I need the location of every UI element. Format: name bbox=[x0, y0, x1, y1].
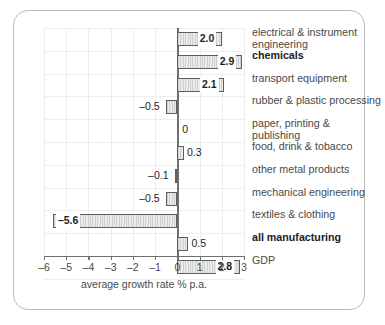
bar-value-label: –0.5 bbox=[139, 98, 159, 115]
x-axis-tick bbox=[66, 256, 67, 260]
x-axis-tick bbox=[111, 256, 112, 260]
bar-value-label: 2.0 bbox=[198, 30, 217, 47]
bar-track: 2.0 bbox=[44, 28, 244, 51]
bar bbox=[177, 146, 184, 160]
x-axis-tick bbox=[222, 256, 223, 260]
x-axis-tick-label: 3 bbox=[241, 261, 247, 273]
x-axis-tick-label: –5 bbox=[60, 261, 72, 273]
category-label: GDP bbox=[252, 255, 385, 267]
category-label: other metal products bbox=[252, 164, 385, 176]
x-axis-tick-label: 1 bbox=[197, 261, 203, 273]
bar-row: –0.5mechanical engineering bbox=[30, 188, 351, 211]
x-axis-tick-label: 0 bbox=[174, 261, 180, 273]
bar-track: 2.8 bbox=[44, 256, 244, 279]
bar-row: 0paper, printing & publishing bbox=[30, 119, 351, 142]
x-axis-tick-label: –3 bbox=[105, 261, 117, 273]
bar-value-label: 2.1 bbox=[200, 76, 219, 93]
x-axis-tick-label: 2 bbox=[219, 261, 225, 273]
category-label: all manufacturing bbox=[252, 232, 385, 244]
bar-track: 2.1 bbox=[44, 74, 244, 97]
bar-track: –0.5 bbox=[44, 188, 244, 211]
x-axis-line bbox=[44, 256, 244, 257]
bar bbox=[177, 237, 188, 251]
bar-value-label: 0 bbox=[182, 121, 188, 138]
bar-row: 0.5all manufacturing bbox=[30, 233, 351, 256]
chart-card: 2.0electrical & instrument engineering2.… bbox=[13, 10, 365, 310]
x-axis-tick-label: –4 bbox=[83, 261, 95, 273]
bar bbox=[166, 192, 177, 206]
x-axis-tick-label: –2 bbox=[127, 261, 139, 273]
bar-value-label: –5.6 bbox=[56, 212, 80, 229]
bar-row: 2.9chemicals bbox=[30, 51, 351, 74]
category-label: food, drink & tobacco bbox=[252, 141, 385, 153]
bar-row: –0.1other metal products bbox=[30, 165, 351, 188]
category-label: textiles & clothing bbox=[252, 209, 385, 221]
x-axis-tick bbox=[44, 256, 45, 260]
x-axis-tick bbox=[244, 256, 245, 260]
bar-value-label: 0.5 bbox=[191, 235, 206, 252]
x-axis-tick-label: –6 bbox=[38, 261, 50, 273]
bar-row: 2.1transport equipment bbox=[30, 74, 351, 97]
category-label: chemicals bbox=[252, 50, 385, 62]
x-axis-tick bbox=[133, 256, 134, 260]
bar-value-label: 0.3 bbox=[187, 144, 202, 161]
bar-track: –5.6 bbox=[44, 210, 244, 233]
chart-plot-area: 2.0electrical & instrument engineering2.… bbox=[30, 28, 351, 294]
category-label: paper, printing & publishing bbox=[252, 118, 385, 141]
bar-row: –5.6textiles & clothing bbox=[30, 210, 351, 233]
bar-track: 0 bbox=[44, 119, 244, 142]
bar-row: –0.5rubber & plastic processing bbox=[30, 96, 351, 119]
bar-track: 2.9 bbox=[44, 51, 244, 74]
bar-row: 0.3food, drink & tobacco bbox=[30, 142, 351, 165]
bar-row: 2.0electrical & instrument engineering bbox=[30, 28, 351, 51]
bar-value-label: 2.9 bbox=[218, 53, 237, 70]
x-axis-tick bbox=[200, 256, 201, 260]
bar-track: –0.5 bbox=[44, 96, 244, 119]
bar-track: 0.5 bbox=[44, 233, 244, 256]
x-axis-tick-label: –1 bbox=[149, 261, 161, 273]
x-axis-tick bbox=[177, 256, 178, 260]
x-axis-tick bbox=[88, 256, 89, 260]
category-label: rubber & plastic processing bbox=[252, 95, 385, 107]
bar-track: –0.1 bbox=[44, 165, 244, 188]
category-label: transport equipment bbox=[252, 73, 385, 85]
category-label: electrical & instrument engineering bbox=[252, 27, 385, 50]
bar bbox=[166, 100, 177, 114]
bar-track: 0.3 bbox=[44, 142, 244, 165]
category-label: mechanical engineering bbox=[252, 187, 385, 199]
bar-value-label: –0.5 bbox=[139, 190, 159, 207]
bar-row: 2.8GDP bbox=[30, 256, 351, 279]
bar bbox=[175, 169, 177, 183]
x-axis-title: average growth rate % p.a. bbox=[44, 278, 244, 290]
x-axis-tick bbox=[155, 256, 156, 260]
bar-value-label: –0.1 bbox=[148, 167, 168, 184]
